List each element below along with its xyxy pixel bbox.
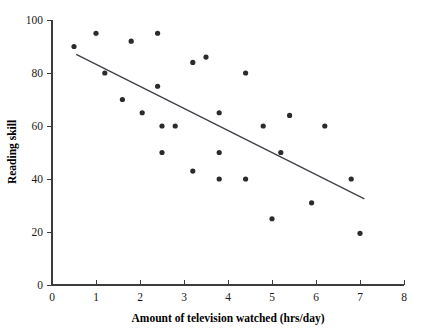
data-point (243, 176, 248, 181)
x-tick-label: 1 (93, 291, 99, 303)
y-axis-ticks (47, 20, 52, 285)
data-point (322, 123, 327, 128)
data-point (217, 150, 222, 155)
x-tick-label: 2 (137, 291, 143, 303)
data-point (269, 216, 274, 221)
data-point (261, 123, 266, 128)
x-axis-tick-labels: 012345678 (49, 291, 407, 303)
data-point (140, 110, 145, 115)
x-tick-label: 3 (181, 291, 187, 303)
data-point (173, 123, 178, 128)
data-point (190, 168, 195, 173)
x-tick-label: 7 (357, 291, 363, 303)
x-axis-ticks (52, 280, 404, 285)
data-point (243, 70, 248, 75)
data-point (217, 176, 222, 181)
data-point (203, 55, 208, 60)
data-point (190, 60, 195, 65)
data-point (102, 70, 107, 75)
data-point (357, 231, 362, 236)
data-point (159, 123, 164, 128)
data-point (120, 97, 125, 102)
data-point (159, 150, 164, 155)
x-tick-label: 0 (49, 291, 55, 303)
scatter-plot-figure: 020406080100 012345678 Amount of televis… (0, 0, 429, 333)
data-point (349, 176, 354, 181)
x-axis-title: Amount of television watched (hrs/day) (132, 312, 325, 325)
data-point (309, 200, 314, 205)
x-tick-label: 8 (401, 291, 407, 303)
y-axis-title: Reading skill (6, 120, 19, 184)
y-tick-label: 0 (37, 279, 43, 291)
plot-canvas: 020406080100 012345678 Amount of televis… (0, 0, 429, 333)
data-point (155, 31, 160, 36)
data-point (129, 39, 134, 44)
data-point (93, 31, 98, 36)
y-tick-label: 40 (32, 173, 44, 185)
data-point (278, 150, 283, 155)
x-tick-label: 6 (313, 291, 319, 303)
data-point (155, 84, 160, 89)
y-axis-tick-labels: 020406080100 (26, 14, 44, 291)
y-tick-label: 60 (32, 120, 44, 132)
data-point (287, 113, 292, 118)
x-tick-label: 4 (225, 291, 231, 303)
data-point (71, 44, 76, 49)
y-tick-label: 100 (26, 14, 44, 26)
y-tick-label: 80 (32, 67, 44, 79)
data-point (217, 110, 222, 115)
x-tick-label: 5 (269, 291, 275, 303)
y-tick-label: 20 (32, 226, 44, 238)
data-point-group (71, 31, 362, 236)
